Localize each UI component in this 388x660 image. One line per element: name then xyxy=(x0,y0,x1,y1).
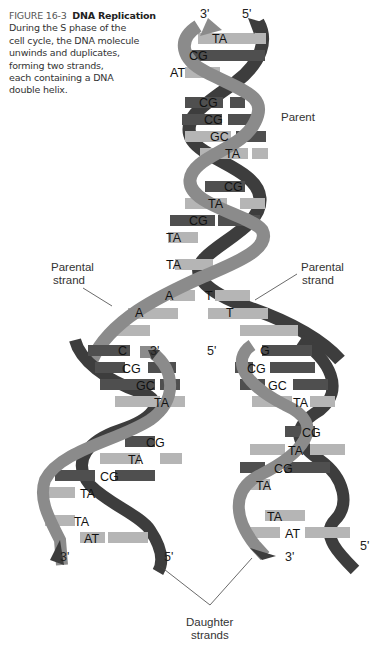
bp-label: CG xyxy=(224,180,243,194)
bp-label: TA xyxy=(225,147,241,161)
bp-label: A xyxy=(135,306,144,320)
bp-label: CG xyxy=(146,436,165,450)
leader-line xyxy=(83,288,112,306)
bp-label: TA xyxy=(208,197,224,211)
bp-label: GC xyxy=(268,379,287,393)
bp-label: TA xyxy=(166,258,182,272)
end-label: 3' xyxy=(60,550,69,564)
bp-label: CG xyxy=(204,113,223,127)
bp-label: TA xyxy=(154,396,170,410)
parental-strand-left-label: strand xyxy=(53,274,85,286)
end-label: 5' xyxy=(242,7,251,21)
leader-line xyxy=(160,566,210,605)
bp-label: TA xyxy=(267,510,283,524)
end-label: 5' xyxy=(207,344,216,358)
bp-label: T xyxy=(226,306,234,320)
bp-label: CG xyxy=(100,470,119,484)
bp-label: CG xyxy=(199,96,218,110)
bp-label: C xyxy=(118,344,127,358)
parental-strand-right-label: strand xyxy=(302,274,334,286)
bp-label: TA xyxy=(288,444,304,458)
bp-label: GC xyxy=(210,130,229,144)
leader-line xyxy=(210,558,252,605)
parental-strand-left-label: Parental xyxy=(51,261,94,273)
bp-label: G xyxy=(260,344,270,358)
end-label: 5' xyxy=(164,550,173,564)
bp-label: TA xyxy=(256,479,272,493)
end-label: 3' xyxy=(285,550,294,564)
end-label: 3' xyxy=(200,7,209,21)
parent-label: Parent xyxy=(281,111,316,123)
bp-label: AT xyxy=(84,532,99,546)
daughter-strands-label: Daughter xyxy=(186,616,233,628)
left-daughter-helix xyxy=(43,340,185,572)
bp-label: TA xyxy=(128,453,144,467)
bp-label: A xyxy=(165,289,174,303)
parental-strand-right-label: Parental xyxy=(301,261,344,273)
bp-label: CG xyxy=(247,362,266,376)
bp-label: GC xyxy=(136,379,155,393)
end-label: 5' xyxy=(360,539,369,553)
bp-label: TA xyxy=(212,32,228,46)
dna-diagram: TA CG AT CG CG GC TA CG TA CG TA TA A A … xyxy=(0,0,388,660)
bp-label: AT xyxy=(285,527,300,541)
bp-label: T xyxy=(205,289,213,303)
bp-label: TA xyxy=(80,487,96,501)
bp-label: CG xyxy=(122,362,141,376)
dna-replication-figure: FIGURE 16-3 DNA Replication During the S… xyxy=(0,0,388,660)
bp-label: CG xyxy=(274,462,293,476)
bp-label: TA xyxy=(293,396,309,410)
bp-label: CG xyxy=(189,214,208,228)
bp-label: TA xyxy=(74,515,90,529)
leader-line xyxy=(255,274,297,300)
daughter-strands-label: strands xyxy=(191,629,229,641)
bp-label: AT xyxy=(170,66,185,80)
end-label: 3' xyxy=(150,344,159,358)
bp-label: CG xyxy=(189,49,208,63)
bp-label: CG xyxy=(302,426,321,440)
bp-label: TA xyxy=(166,231,182,245)
